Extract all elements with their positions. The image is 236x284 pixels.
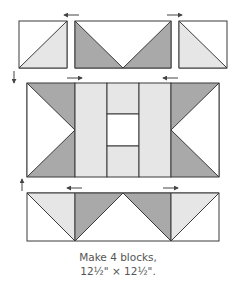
middle-left-flying-geese-unit bbox=[27, 83, 75, 177]
middle-center-column bbox=[107, 83, 139, 177]
center-square bbox=[107, 114, 139, 146]
top-center-flying-geese-unit bbox=[75, 21, 171, 68]
caption-line-1: Make 4 blocks, bbox=[0, 250, 236, 264]
middle-right-flying-geese-unit bbox=[171, 83, 219, 177]
bottom-row bbox=[27, 188, 219, 241]
middle-right-light-strip bbox=[139, 83, 171, 177]
top-right-hst-unit bbox=[179, 21, 227, 68]
middle-row bbox=[27, 78, 219, 177]
caption-line-2: 12½" × 12½". bbox=[0, 264, 236, 278]
top-left-hst-unit bbox=[19, 21, 67, 68]
quilt-block-assembly-diagram bbox=[0, 0, 236, 284]
top-row bbox=[19, 15, 227, 68]
middle-left-light-strip bbox=[75, 83, 107, 177]
